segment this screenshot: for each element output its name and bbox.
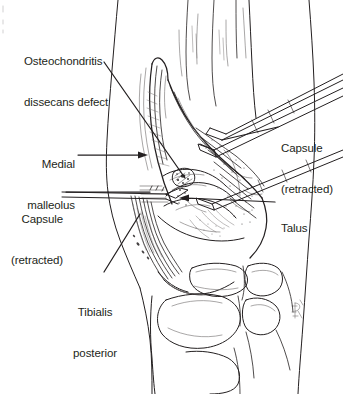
tarsal-bones-inner-lines	[168, 269, 278, 337]
lower-wound-edge	[158, 272, 234, 294]
foot-medial-border	[151, 296, 156, 394]
tibialis-posterior-tendon	[131, 196, 182, 280]
label-line-1: Talus	[281, 222, 336, 236]
artist-signature	[292, 300, 303, 318]
arrowhead-medial-malleolus	[138, 152, 148, 159]
label-line-1: Medial	[6, 158, 75, 172]
label-line-1: Osteochondritis	[24, 55, 146, 69]
tarsal-joint-lines	[234, 266, 293, 394]
talus-stipple	[196, 220, 225, 237]
label-capsule-retracted-left: Capsule (retracted)	[1, 186, 63, 294]
incision-wound-edges	[150, 58, 267, 258]
tarsal-bones	[157, 263, 282, 394]
wound-edge-secondary	[155, 66, 236, 174]
label-line-2: (retracted)	[1, 254, 63, 268]
label-line-1: Capsule	[281, 142, 343, 156]
label-line-1: Tibialis	[62, 306, 128, 320]
label-talus: Talus	[281, 195, 336, 263]
upper-leg-contour-lines	[186, 0, 237, 106]
retractor-left-hatch	[140, 186, 168, 202]
leader-capsule-right	[222, 127, 278, 140]
label-line-1: Capsule	[1, 213, 63, 227]
retractor-left-teeth	[150, 186, 164, 191]
leader-tibialis-posterior	[104, 214, 140, 272]
label-tibialis-posterior: Tibialis posterior	[62, 279, 128, 387]
label-osteochondritis-dissecans-defect: Osteochondritis dissecans defect	[24, 28, 146, 136]
label-line-2: (retracted)	[281, 183, 343, 197]
label-line-2: posterior	[62, 347, 128, 361]
label-line-2: dissecans defect	[24, 96, 146, 110]
tendon-dark-accents	[132, 234, 149, 260]
medical-illustration-figure: .s { fill:none; stroke:#231f20; stroke-l…	[0, 0, 343, 394]
